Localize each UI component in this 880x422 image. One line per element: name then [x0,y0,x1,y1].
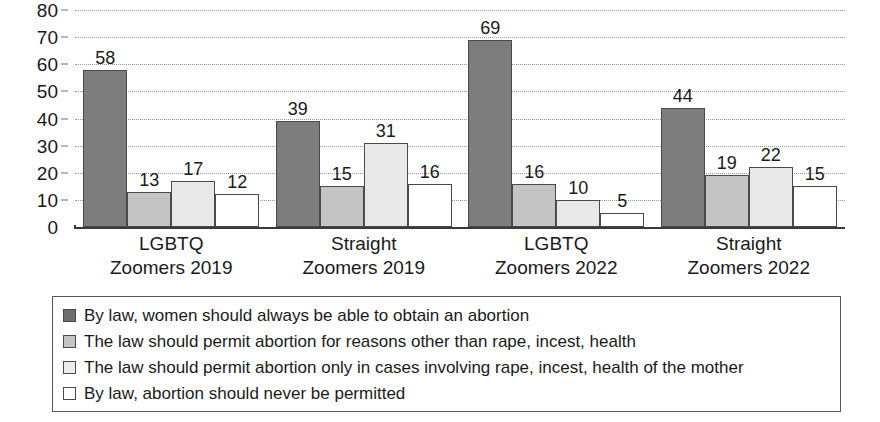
y-tick-mark [61,37,68,38]
bar-value-label: 31 [376,122,396,140]
legend: By law, women should always be able to o… [52,296,841,412]
bars-layer: 5813171239153116691610544192215 [75,10,845,227]
bar [661,108,705,227]
bar-value-label: 19 [717,154,737,172]
bar-value-label: 10 [568,179,588,197]
bar [320,186,364,227]
legend-item[interactable]: By law, abortion should never be permitt… [63,380,836,406]
bar [364,143,408,227]
bar-value-label: 16 [420,163,440,181]
x-label-line-2: Zoomers 2022 [687,256,810,280]
bar-value-label: 22 [761,146,781,164]
bar-value-label: 15 [332,165,352,183]
legend-swatch-icon [63,387,76,400]
legend-item-label: The law should permit abortion only in c… [84,359,744,376]
y-tick-mark [61,118,68,119]
y-tick-mark [61,172,68,173]
x-axis-category-label: StraightZoomers 2019 [302,232,425,280]
y-tick-label: 20 [37,163,58,182]
bar [600,213,644,227]
bar-value-label: 15 [805,165,825,183]
x-axis-category-label: LGBTQZoomers 2022 [495,232,618,280]
y-tick-label: 40 [37,109,58,128]
legend-item[interactable]: The law should permit abortion for reaso… [63,328,836,354]
bar [556,200,600,227]
y-tick-mark [61,10,68,11]
y-tick-mark [61,199,68,200]
legend-item-label: The law should permit abortion for reaso… [84,333,636,350]
x-label-line-2: Zoomers 2022 [495,256,618,280]
x-axis-category-label: StraightZoomers 2022 [687,232,810,280]
x-label-line-1: Straight [716,233,781,254]
bar [127,192,171,227]
legend-item-label: By law, women should always be able to o… [84,307,529,324]
y-tick-label: 50 [37,82,58,101]
y-tick-mark [61,91,68,92]
legend-swatch-icon [63,335,76,348]
legend-item-label: By law, abortion should never be permitt… [84,385,405,402]
x-label-line-2: Zoomers 2019 [110,256,233,280]
bar [749,167,793,227]
bar-value-label: 58 [95,49,115,67]
y-tick-label: 80 [37,1,58,20]
y-tick-mark [61,64,68,65]
bar [512,184,556,227]
bar [171,181,215,227]
x-axis-category-label: LGBTQZoomers 2019 [110,232,233,280]
y-tick-label: 10 [37,190,58,209]
x-label-line-1: Straight [331,233,396,254]
bar-value-label: 39 [288,100,308,118]
y-tick-label: 70 [37,28,58,47]
bar-value-label: 44 [673,87,693,105]
legend-list: By law, women should always be able to o… [63,302,836,406]
bar [276,121,320,227]
legend-item[interactable]: By law, women should always be able to o… [63,302,836,328]
plot-area: 5813171239153116691610544192215 [75,10,845,227]
legend-swatch-icon [63,309,76,322]
x-label-line-2: Zoomers 2019 [302,256,425,280]
bar [408,184,452,227]
legend-item[interactable]: The law should permit abortion only in c… [63,354,836,380]
bar [793,186,837,227]
y-axis: 80706050403020100 [0,10,68,227]
x-label-line-1: LGBTQ [524,233,588,254]
x-label-line-1: LGBTQ [139,233,203,254]
y-tick-label: 60 [37,55,58,74]
bar-chart: 80706050403020100 5813171239153116691610… [0,0,880,422]
y-tick-label: 30 [37,136,58,155]
bar-value-label: 12 [227,173,247,191]
legend-swatch-icon [63,361,76,374]
bar-value-label: 13 [139,171,159,189]
bar-value-label: 17 [183,160,203,178]
axis-baseline [75,227,845,229]
y-tick-mark [61,145,68,146]
bar [468,40,512,227]
bar [83,70,127,227]
bar-value-label: 69 [480,19,500,37]
bar-value-label: 5 [617,192,627,210]
y-tick-label: 0 [47,218,58,237]
bar [215,194,259,227]
x-axis-labels: LGBTQZoomers 2019StraightZoomers 2019LGB… [75,232,845,287]
bar-value-label: 16 [524,163,544,181]
bar [705,175,749,227]
